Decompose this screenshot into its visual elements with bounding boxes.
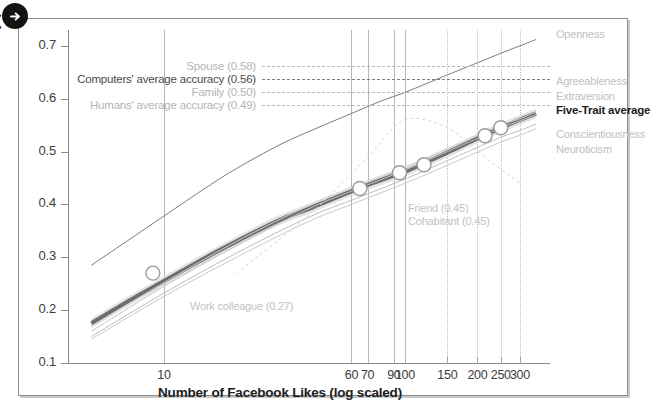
series-line xyxy=(91,129,536,339)
y-axis-title: Accuracy (self-other agreement) xyxy=(0,0,1,96)
reference-line-label: Spouse (0.58) xyxy=(186,60,256,72)
legend-item[interactable]: Neuroticism xyxy=(556,143,612,155)
data-point-marker[interactable] xyxy=(393,166,407,180)
reference-line xyxy=(262,105,550,106)
legend-item[interactable]: Conscientiousness xyxy=(556,128,645,140)
data-point-marker[interactable] xyxy=(146,266,160,280)
reference-line-label: Family (0.50) xyxy=(192,86,257,98)
data-point-marker[interactable] xyxy=(494,121,508,135)
data-point-marker[interactable] xyxy=(478,129,492,143)
plot-annotation-label: Cohabitant (0.45) xyxy=(408,215,490,227)
plot-annotation-label: Friend (0.45) xyxy=(408,202,468,214)
reference-line-label: Computers' average accuracy (0.56) xyxy=(77,73,256,85)
reference-line xyxy=(262,92,550,93)
data-point-marker[interactable] xyxy=(353,182,367,196)
x-axis-title: Number of Facebook Likes (log scaled) xyxy=(0,385,560,400)
legend-item[interactable]: Openness xyxy=(556,28,605,40)
reference-line-label: Humans' average accuracy (0.49) xyxy=(90,99,256,111)
legend-item[interactable]: Extraversion xyxy=(556,90,615,102)
legend-item[interactable]: Five-Trait average xyxy=(556,104,650,116)
plot-annotation-label: Work colleague (0.27) xyxy=(190,300,293,312)
data-point-marker[interactable] xyxy=(417,158,431,172)
reference-line xyxy=(262,79,550,80)
reference-line xyxy=(262,66,550,67)
legend-item[interactable]: Agreeableness xyxy=(556,75,627,87)
